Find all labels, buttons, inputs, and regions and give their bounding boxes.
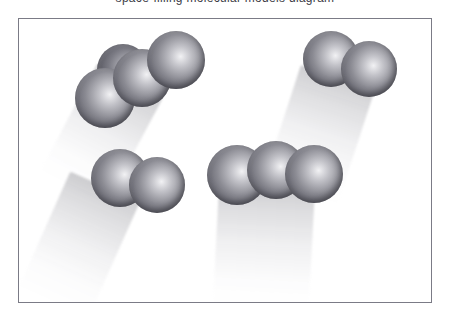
clipped-caption-strip: space-filling molecular models diagram [0, 0, 450, 5]
atom-sphere [341, 41, 397, 97]
atom-sphere [147, 31, 205, 89]
atom-sphere [285, 145, 343, 203]
molecule-center [203, 131, 363, 301]
molecule-bottom-left [61, 137, 226, 297]
figure-frame [18, 18, 432, 303]
clipped-caption-text: space-filling molecular models diagram [0, 0, 450, 5]
illustration-stage [19, 19, 431, 302]
atom-sphere [129, 157, 185, 213]
